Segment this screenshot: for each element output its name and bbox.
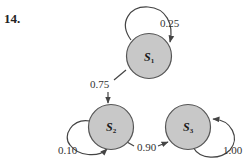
state-s2: S2 [89,105,134,150]
edge-s2-s3: 0.90 [127,141,168,153]
edge-label-s1-s1: 0.25 [160,17,180,29]
edge-label-s2-s2: 0.10 [58,144,78,156]
edge-s1-s2: 0.75 [90,70,126,103]
markov-diagram: 0.25 0.75 0.10 0.90 1.00 S1 S2 S [0,0,244,163]
edge-label-s3-s3: 1.00 [223,144,243,156]
state-s2-sub: 2 [113,127,117,135]
state-s1: S1 [127,34,172,79]
edge-label-s1-s2: 0.75 [90,78,110,90]
state-s3-sub: 3 [190,127,194,135]
state-s1-sub: 1 [151,57,155,65]
state-s3: S3 [166,105,211,150]
edge-label-s2-s3: 0.90 [137,141,157,153]
